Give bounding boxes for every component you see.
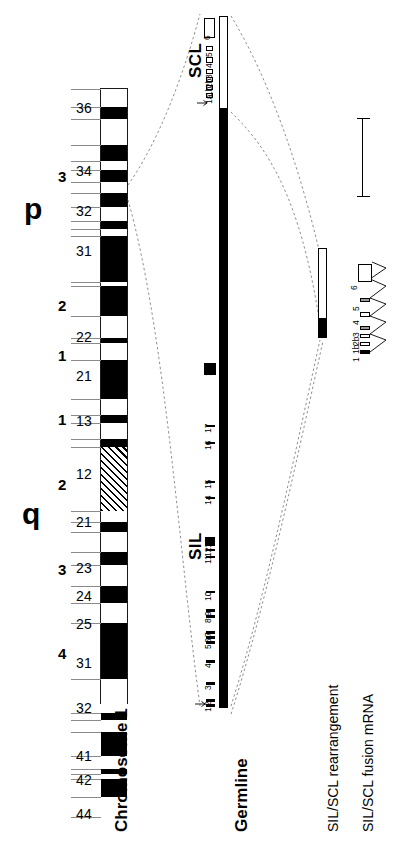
ideogram-band-p13a — [101, 399, 127, 415]
scl-transcription-arrow-icon — [196, 92, 210, 106]
chromosome-title: Chromosome 1 — [112, 708, 132, 832]
connector-chr-to-sil — [128, 200, 200, 706]
connector-sil-to-rearr-bottom — [231, 340, 320, 706]
ideogram-band-p36b — [101, 107, 127, 119]
band-label-p13: 13 — [76, 413, 92, 429]
sil-exon-label-6: 6 — [203, 638, 213, 643]
ideogram-tick — [71, 161, 101, 162]
ideogram-band-p11 — [101, 439, 127, 447]
ideogram-band-q25 — [101, 603, 127, 623]
ideogram-tick — [71, 229, 101, 230]
band-label-p31: 31 — [76, 243, 92, 259]
scl-exon-label-4: 4 — [204, 63, 214, 68]
band-label-p22: 22 — [76, 329, 92, 345]
ideogram-tick — [71, 182, 101, 183]
ideogram-tick — [71, 532, 101, 533]
band-label-q31: 31 — [76, 655, 92, 671]
ideogram-band-q24 — [101, 586, 127, 603]
figure-root: p q 3 2 1 1 2 3 4 36 34 32 31 22 21 13 1… — [0, 0, 403, 846]
region-number-p2: 2 — [58, 297, 66, 314]
ideogram-tick — [71, 282, 101, 283]
ideogram-tick — [71, 586, 101, 587]
sil-exon-label-7: 7 — [203, 632, 213, 637]
sil-exon-label-5: 5 — [203, 644, 213, 649]
band-label-q21: 21 — [76, 514, 92, 530]
region-number-p1: 1 — [58, 347, 66, 364]
ideogram-band-p36 — [101, 89, 127, 107]
scale-bar-cap-bottom — [357, 196, 370, 197]
rearrangement-track-label: SIL/SCL rearrangement — [325, 685, 341, 832]
germline-track-label: Germline — [232, 758, 252, 832]
mrna-exon-6-box — [358, 264, 372, 282]
band-label-p36: 36 — [76, 100, 92, 116]
region-number-q1: 1 — [58, 411, 66, 428]
ideogram-band-p36c — [101, 119, 127, 145]
mrna-exon-1-box — [360, 350, 370, 354]
band-label-q24: 24 — [76, 588, 92, 604]
ideogram-tick — [71, 511, 101, 512]
sil-exon-label-18: 18 — [203, 367, 213, 376]
chromosome-ideogram — [100, 88, 128, 704]
band-label-q25: 25 — [76, 616, 92, 632]
ideogram-tick — [71, 439, 101, 440]
germline-scl-segment — [219, 16, 228, 112]
ideogram-tick — [71, 360, 101, 361]
sil-exon-label-16: 16 — [203, 441, 213, 450]
ideogram-tick — [71, 447, 101, 448]
ideogram-band-p21 — [101, 360, 127, 399]
germline-bar — [219, 108, 228, 708]
mrna-exon-label-3: 3 — [351, 332, 361, 337]
band-label-q42: 42 — [76, 772, 92, 788]
scl-exon-label-6: 6 — [202, 35, 212, 40]
ideogram-band-q23 — [101, 565, 127, 586]
band-label-p21: 21 — [76, 368, 92, 384]
sil-exon-label-4: 4 — [203, 663, 213, 668]
region-number-p3: 3 — [58, 168, 66, 185]
mrna-exon-label-2b: 2b — [351, 337, 361, 346]
scl-exon-label-2b: 2b — [204, 79, 214, 88]
band-label-p34: 34 — [76, 163, 92, 179]
ideogram-tick — [71, 552, 101, 553]
ideogram-band-q21a — [101, 511, 127, 522]
scl-exon-label-5: 5 — [204, 52, 214, 57]
scl-exon-label-3: 3 — [204, 74, 214, 79]
sil-exon-label-12: 12 — [203, 548, 213, 557]
ideogram-band-q31 — [101, 623, 127, 679]
connector-scl-to-rearr-top — [231, 16, 319, 250]
ideogram-band-p34 — [101, 170, 127, 182]
ideogram-band-p34a — [101, 161, 127, 170]
sil-exon-label-17: 17 — [203, 424, 213, 433]
ideogram-tick — [71, 193, 101, 194]
ideogram-band-p22a — [101, 316, 127, 338]
ideogram-tick — [71, 119, 101, 120]
band-label-q12: 12 — [76, 466, 92, 482]
rearrangement-sil-segment — [318, 318, 327, 338]
mrna-exon-label-1: 1 — [351, 357, 361, 362]
ideogram-band-q21b — [101, 532, 127, 552]
ideogram-band-p22b — [101, 343, 127, 360]
region-number-q3: 3 — [58, 561, 66, 578]
mrna-exon-label-4: 4 — [351, 320, 361, 325]
ideogram-band-p31 — [101, 236, 127, 282]
sil-exon-label-14: 14 — [203, 496, 213, 505]
ideogram-tick — [71, 145, 101, 146]
band-label-q41: 41 — [76, 748, 92, 764]
ideogram-band-q21 — [101, 522, 127, 532]
ideogram-band-p12 — [101, 423, 127, 439]
band-label-q32: 32 — [76, 700, 92, 716]
connector-chr-to-scl — [128, 14, 200, 185]
sil-transcription-arrow-icon — [194, 700, 208, 714]
arm-label-p: p — [24, 192, 42, 226]
band-label-p32: 32 — [76, 203, 92, 219]
scale-bar — [362, 118, 363, 196]
mrna-exon-4-box — [360, 312, 370, 317]
ideogram-band-p31c — [101, 286, 127, 316]
arm-label-q: q — [22, 497, 40, 531]
mrna-exon-label-5: 5 — [351, 306, 361, 311]
scale-bar-cap-top — [357, 118, 370, 119]
ideogram-tick — [71, 399, 101, 400]
ideogram-tick — [71, 236, 101, 237]
ideogram-tick — [71, 679, 101, 680]
ideogram-tick — [71, 286, 101, 287]
connector-sil-to-rearr-bottom2 — [231, 341, 323, 714]
